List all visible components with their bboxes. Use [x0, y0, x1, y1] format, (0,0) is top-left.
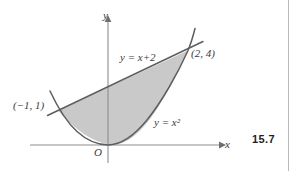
- y-axis-label: y: [103, 10, 108, 21]
- point-label-right: (2, 4): [191, 48, 215, 59]
- origin-label: O: [94, 147, 102, 158]
- point-label-left: (−1, 1): [13, 100, 44, 111]
- figure-container: y x O y = x+2 y = x² (−1, 1) (2, 4) 15.7: [0, 0, 295, 171]
- line-equation-label: y = x+2: [120, 52, 156, 63]
- x-axis-label: x: [225, 139, 230, 150]
- shaded-region: [58, 51, 188, 145]
- coordinate-plot: [0, 0, 295, 171]
- parabola-equation-label: y = x²: [154, 117, 180, 128]
- page-margin-rule: [288, 0, 289, 171]
- figure-number: 15.7: [252, 133, 275, 145]
